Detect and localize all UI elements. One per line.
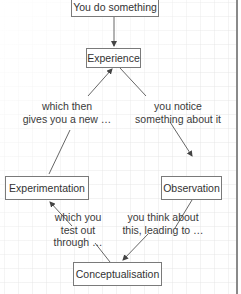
label-line: which you: [48, 211, 108, 224]
node-conceptualisation: Conceptualisation: [73, 262, 162, 286]
label-line: something about it: [130, 113, 226, 126]
label-experimentation-to-experience: which then gives you a new …: [22, 100, 112, 125]
arrow-experience-to-observation: [170, 122, 192, 156]
node-experience: Experience: [86, 48, 141, 68]
node-you-do-something: You do something: [71, 0, 159, 17]
label-line: through …: [48, 236, 108, 249]
arrow-observation-to-conceptualisation: [123, 234, 148, 260]
label-observation-to-conceptualisation: you think about this, leading to …: [120, 211, 206, 236]
label-line: you notice: [130, 100, 226, 113]
label-line: this, leading to …: [120, 224, 206, 237]
node-experimentation: Experimentation: [5, 176, 89, 200]
label-conceptualisation-to-experimentation: which you test out through …: [48, 211, 108, 249]
label-line: test out: [48, 224, 108, 237]
label-line: you think about: [120, 211, 206, 224]
node-observation: Observation: [161, 176, 222, 200]
label-line: gives you a new …: [22, 113, 112, 126]
label-line: which then: [22, 100, 112, 113]
label-experience-to-observation: you notice something about it: [130, 100, 226, 125]
arrow-experimentation-to-experience: [88, 69, 112, 96]
diagram-edges: [0, 0, 241, 294]
